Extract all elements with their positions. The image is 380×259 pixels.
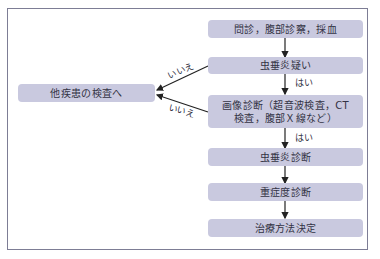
node-label-line2: 検査，腹部Ｘ線など） xyxy=(234,112,337,125)
node-label: 虫垂炎疑い xyxy=(260,59,312,72)
node-label-line1: 画像診断（超音波検査，CT xyxy=(222,99,349,112)
node-interview-exam-blood: 問診，腹部診察，採血 xyxy=(208,20,363,38)
node-imaging-diagnosis: 画像診断（超音波検査，CT 検査，腹部Ｘ線など） xyxy=(208,95,363,128)
node-appendicitis-diagnosis: 虫垂炎診断 xyxy=(208,148,363,166)
node-treatment-decision: 治療方法決定 xyxy=(208,219,363,237)
node-label: 虫垂炎診断 xyxy=(260,151,312,164)
edge-label-yes-1: はい xyxy=(295,76,313,89)
node-label: 問診，腹部診察，採血 xyxy=(234,23,337,36)
edge-label-yes-2: はい xyxy=(295,131,313,144)
node-other-disease-tests: 他疾患の検査へ xyxy=(18,84,155,102)
node-severity-diagnosis: 重症度診断 xyxy=(208,183,363,201)
node-label: 他疾患の検査へ xyxy=(50,87,122,100)
node-suspected-appendicitis: 虫垂炎疑い xyxy=(208,57,363,74)
node-label: 重症度診断 xyxy=(260,186,312,199)
node-label: 治療方法決定 xyxy=(255,222,317,235)
